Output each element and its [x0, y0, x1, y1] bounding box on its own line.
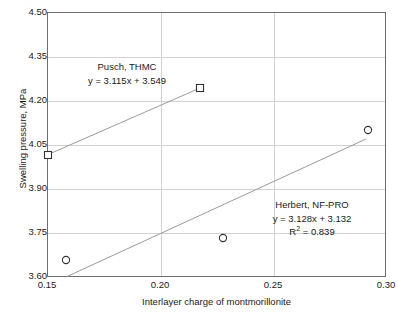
annotation-pusch-name: Pusch, THMC	[62, 60, 192, 74]
annotation-herbert-equation: y = 3.128x + 3.132	[246, 212, 378, 226]
annotation-herbert: Herbert, NF-PRO y = 3.128x + 3.132 R2 = …	[246, 198, 378, 239]
y-axis-tick-label: 3.75	[7, 227, 47, 237]
x-axis-tick-label: 0.15	[25, 280, 69, 290]
r-squared-value: = 0.839	[300, 226, 335, 237]
gridline-horizontal	[48, 57, 385, 58]
y-axis-title: Swelling pressure, MPa	[17, 59, 28, 219]
gridline-vertical	[161, 13, 162, 276]
x-axis-title: Interlayer charge of montmorillonite	[47, 296, 386, 307]
x-axis-tick-label: 0.20	[138, 280, 182, 290]
chart-figure: 4.50 4.35 4.20 4.05 3.90 3.75 3.60 0.15 …	[0, 0, 398, 313]
annotation-herbert-r-squared: R2 = 0.839	[246, 225, 378, 239]
gridline-horizontal	[48, 101, 385, 102]
gridline-horizontal	[48, 145, 385, 146]
gridline-horizontal	[48, 189, 385, 190]
x-axis-tick-label: 0.30	[364, 280, 398, 290]
x-axis-tick-label: 0.25	[251, 280, 295, 290]
annotation-pusch: Pusch, THMC y = 3.115x + 3.549	[62, 60, 192, 87]
annotation-herbert-name: Herbert, NF-PRO	[246, 198, 378, 212]
annotation-pusch-equation: y = 3.115x + 3.549	[62, 74, 192, 88]
y-axis-tick-label: 4.50	[7, 7, 47, 17]
